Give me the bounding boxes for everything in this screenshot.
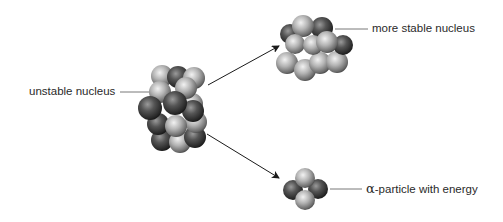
unstable-nucleus-label: unstable nucleus	[29, 86, 115, 98]
more-stable-nucleus-label: more stable nucleus	[372, 23, 475, 35]
alpha-symbol: α	[366, 181, 375, 196]
alpha-label-text: -particle with energy	[375, 183, 478, 195]
unstable-nucleus	[138, 65, 207, 153]
alpha-particle	[283, 168, 328, 210]
alpha-particle-label: α-particle with energy	[366, 182, 478, 196]
arrow-to-alpha	[207, 134, 279, 178]
arrow-to-stable	[208, 46, 279, 85]
more-stable-nucleus	[276, 15, 353, 81]
